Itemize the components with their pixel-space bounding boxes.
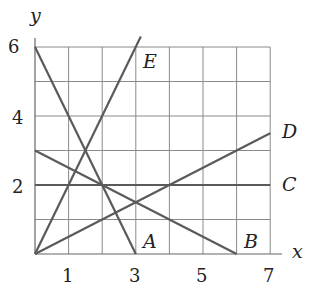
label-b: B bbox=[243, 230, 258, 252]
label-e: E bbox=[142, 50, 157, 72]
y-axis-label: y bbox=[29, 4, 41, 26]
y-tick-6: 6 bbox=[8, 36, 19, 57]
x-tick-3: 3 bbox=[129, 265, 140, 286]
x-axis-label: x bbox=[292, 240, 303, 262]
x-tick-5: 5 bbox=[196, 265, 207, 286]
coordinate-diagram: y x 6 4 2 1 3 5 7 A B C D E bbox=[0, 0, 324, 304]
label-c: C bbox=[282, 173, 297, 195]
line-e bbox=[35, 37, 141, 254]
y-tick-2: 2 bbox=[12, 176, 23, 197]
label-d: D bbox=[281, 120, 297, 142]
label-a: A bbox=[141, 230, 157, 252]
y-tick-4: 4 bbox=[12, 107, 23, 128]
x-tick-1: 1 bbox=[62, 265, 73, 286]
x-tick-7: 7 bbox=[263, 265, 274, 286]
